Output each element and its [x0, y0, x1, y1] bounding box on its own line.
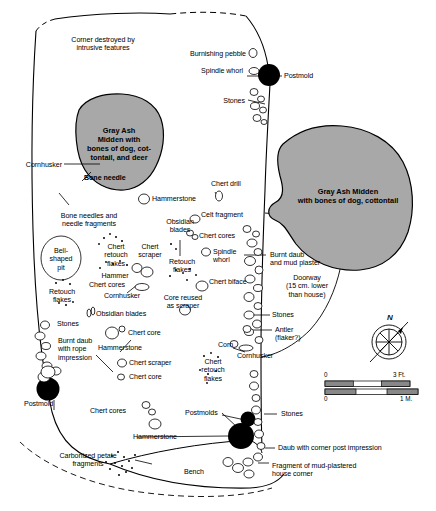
label-bench: Bench: [184, 468, 204, 476]
compass-north-label: N: [387, 313, 393, 322]
north-wall: [55, 13, 170, 19]
label-stones-bottom: Stones: [281, 410, 303, 418]
label-spindle-whorl-mid: Spindle whorl: [213, 248, 236, 265]
label-chert-retouch-low: Chert retouch flakes: [201, 358, 224, 383]
label-fragment-mud: Fragment of mud-plastered house corner: [272, 462, 356, 479]
burnt-daub-rope-glyph: [41, 366, 55, 378]
destroyed-corner-dashed: [36, 19, 55, 31]
chert-core-glyph-l: [118, 374, 125, 380]
label-obsidian-blades-lower: Obsidian blades: [96, 310, 146, 318]
label-cornhusker-mid: Cornhusker: [104, 292, 140, 300]
label-chert-core-upper: Chert core: [128, 329, 161, 337]
northeast-wall: [246, 16, 268, 66]
obsidian-blade-glyph-2: [91, 307, 95, 315]
label-cornhusker-left: Cornhusker: [26, 161, 62, 169]
midden-right-label: Gray Ash Midden with bones of dog, cotto…: [298, 187, 399, 205]
hammerstone-glyph-mid: [106, 327, 119, 339]
label-chert-biface: Chert biface: [209, 278, 247, 286]
label-hammerstone-bottom: Hammerstone: [133, 433, 177, 441]
scale-meters-min: 0: [324, 395, 328, 402]
label-postmold-left: Postmold: [24, 400, 53, 408]
chert-cores-b2: [149, 409, 156, 415]
cornhusker-glyph-mid: [135, 284, 149, 291]
label-chert-scraper-low: Chert scraper: [129, 359, 171, 367]
chert-biface-glyph: [196, 281, 208, 291]
scale-bar-meters: [325, 389, 418, 395]
label-doorway: Doorway (15 cm. lower than house): [286, 274, 328, 299]
label-stones-left: Stones: [57, 320, 79, 328]
burnishing-pebble-glyph: [249, 49, 257, 58]
east-wall-upper: [265, 84, 270, 190]
label-corner-destroyed: Corner destroyed by intrusive features: [71, 36, 134, 53]
label-hammerstone-mid: Hammerstone: [98, 344, 142, 352]
label-chert-cores-right: Chert cores: [199, 232, 235, 240]
label-celt-fragment: Celt fragment: [201, 211, 243, 219]
scale-meters-max: 1 M.: [400, 395, 412, 402]
hammerstone-glyph-upper: [139, 194, 150, 204]
label-corn: Corn: [218, 341, 233, 349]
compass-rose: [370, 322, 408, 362]
label-burnt-daub-rope: Burnt daub with rope impression: [58, 337, 92, 362]
hammerstone-bot-glyph: [149, 419, 161, 429]
stone-cluster-north: [250, 89, 267, 125]
label-chert-core-lower: Chert core: [129, 373, 162, 381]
cornhusker-glyph-low: [239, 345, 253, 351]
scale-bar-feet: [325, 381, 410, 387]
postmold-south-large: [228, 423, 254, 449]
hammer-glyph-1: [132, 264, 142, 273]
postmold-north: [258, 64, 280, 86]
label-postmolds: Postmolds: [185, 409, 218, 417]
obsidian-blade-glyph-1: [87, 309, 91, 317]
postmold-south-small: [241, 412, 256, 427]
east-wall-lower: [261, 190, 265, 448]
label-bone-needle: Bone needle: [84, 174, 126, 182]
label-bell-shaped-pit: Bell- shaped pit: [50, 247, 73, 272]
scale-feet-min: 0: [324, 371, 328, 378]
chert-cores-b1: [142, 402, 150, 409]
label-burnt-daub-plaster: Burnt daub and mud plaster: [270, 251, 320, 268]
label-chert-cores-bottom: Chert cores: [90, 407, 126, 415]
label-stones-doorway: Stones: [272, 311, 294, 319]
label-obsidian-blades-upper: Obsidian blades: [166, 218, 194, 235]
scale-feet-max: 3 Ft.: [393, 371, 406, 378]
label-bone-needles: Bone needles and needle fragments: [61, 212, 117, 229]
label-retouch-flakes-mid: Retouch flakes: [169, 258, 195, 275]
label-burnishing-pebble: Burnishing pebble: [190, 50, 246, 58]
label-daub-corner-post: Daub with corner post impression: [278, 444, 382, 452]
label-chert-retouch-flakes: Chert retouch flakes: [104, 243, 127, 268]
top-edge-dashed: [170, 12, 246, 16]
label-stones-top: Stones: [223, 97, 245, 105]
label-chert-drill: Chert drill: [211, 180, 241, 188]
label-core-reused: Core reused as scraper: [164, 294, 203, 311]
label-chert-scraper-mid: Chert scraper: [138, 243, 161, 260]
label-chert-cores-mid: Chert cores: [89, 281, 125, 289]
antler-glyph: [243, 326, 251, 333]
chert-core-glyph-u: [119, 326, 125, 332]
chert-drill-glyph: [216, 191, 223, 201]
label-spindle-whorl-top: Spindle whorl: [201, 67, 243, 75]
label-hammer: Hammer: [102, 272, 129, 280]
label-postmold-top: Postmold: [284, 72, 313, 80]
label-retouch-flakes-left: Retouch flakes: [49, 288, 75, 305]
label-carbonized-petate: Carbonized petate fragments: [59, 452, 116, 469]
label-cornhusker-lower: Cornhusker: [237, 352, 273, 360]
chert-scraper-glyph: [118, 359, 127, 367]
spindle-whorl-glyph-top: [249, 68, 259, 75]
label-antler-flaker: Antler (flaker?): [275, 326, 301, 343]
chert-cores-glyph-r2: [192, 235, 198, 240]
midden-left-label: Gray Ash Midden with bones of dog, cot- …: [87, 126, 151, 162]
label-hammerstone-upper: Hammerstone: [152, 195, 196, 203]
spindle-whorl-glyph-mid: [202, 248, 211, 256]
hammer-glyph-2: [141, 267, 153, 277]
